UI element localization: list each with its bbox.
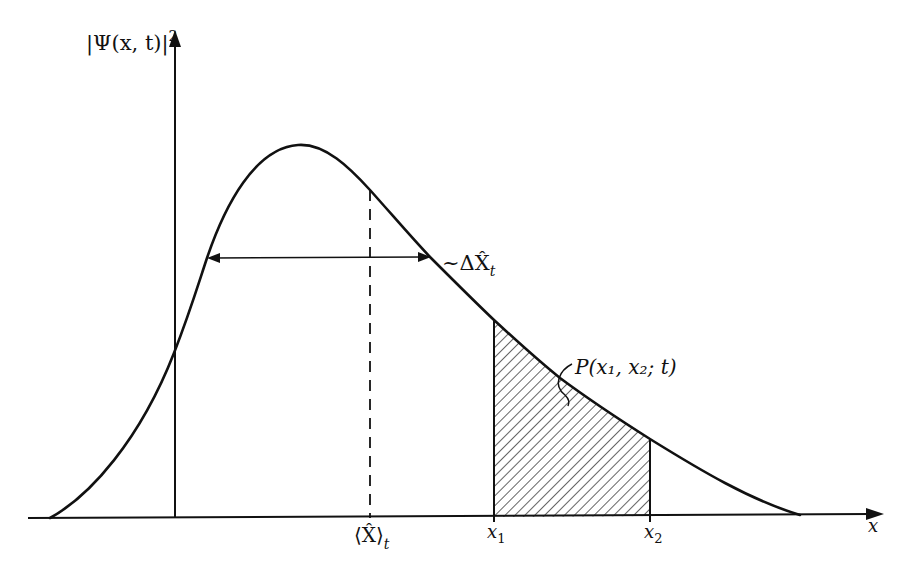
probability-density-diagram: |Ψ(x, t)|2 x ~ΔX̂t ⟨X̂⟩t x1 x2 P(x₁, x₂;…	[0, 0, 899, 581]
y-axis-label: |Ψ(x, t)|2	[86, 28, 178, 56]
density-curve	[50, 145, 800, 518]
x2-label: x2	[644, 521, 662, 546]
width-label: ~ΔX̂t	[442, 251, 496, 279]
arrowhead-right-icon	[418, 252, 431, 262]
x-axis-label: x	[868, 515, 878, 536]
x-axis	[28, 508, 884, 520]
x1-label: x1	[487, 521, 505, 546]
region-label: P(x₁, x₂; t)	[574, 355, 677, 379]
y-axis	[169, 30, 181, 518]
width-arrow	[207, 252, 431, 263]
mean-label: ⟨X̂⟩t	[354, 523, 390, 552]
